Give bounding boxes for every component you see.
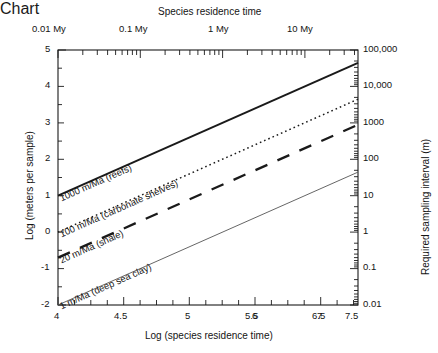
right-tick-label-10: 10 [363,189,374,200]
left-tick-label-1: 1 [45,189,50,200]
bottom-tick-label-4: 4 [54,310,59,321]
right-tick-label-1: 1 [363,225,368,236]
left-axis-title: Log (meters per sample) [24,131,35,240]
right-axis-title: Required sampling interval (m) [420,139,431,275]
right-tick-label-0point01: 0.01 [363,298,382,309]
bottom-tick-label-4point5: 4.5 [114,310,127,321]
bottom-axis-title: Log (species residence time) [145,330,273,341]
top-tick-label-0: 0.01 My [32,23,66,34]
bottom-tick-label-7point5: 7.5 [345,310,358,321]
top-tick-label-1: 0.1 My [119,23,148,34]
bottom-tick-label-5: 5 [185,310,190,321]
right-tick-label-100000: 100,000 [363,43,397,54]
right-tick-label-10000: 10,000 [363,79,392,90]
bottom-tick-label-6point5: 6.5 [312,310,325,321]
left-tick-label-4: 4 [45,79,50,90]
left-tick-label-neg2: -2 [41,298,49,309]
right-tick-label-100: 100 [363,152,379,163]
right-tick-label-0point1: 0.1 [363,261,376,272]
left-tick-label-2: 2 [45,152,50,163]
left-tick-label-0: 0 [45,225,50,236]
bottom-tick-label-6: 6 [252,310,257,321]
right-tick-label-1000: 1000 [363,116,384,127]
top-tick-label-2: 1 My [208,23,229,34]
left-tick-label-neg1: -1 [41,261,49,272]
top-tick-label-3: 10 My [287,23,313,34]
left-tick-label-3: 3 [45,116,50,127]
chart-figure: Species residence time 0.01 My 0.1 My 1 … [0,0,438,353]
top-axis-title: Species residence time [158,6,261,17]
left-tick-label-5: 5 [45,43,50,54]
